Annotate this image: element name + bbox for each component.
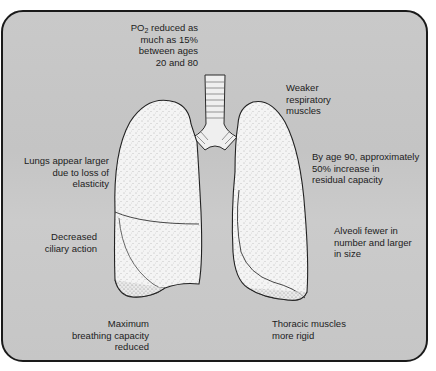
trachea-icon <box>193 75 237 150</box>
diagram-frame: PO2 reduced as much as 15% between ages … <box>1 10 428 362</box>
left-lung-icon <box>115 100 202 297</box>
label-ciliary-action: Decreased ciliary action <box>13 231 97 254</box>
label-po2-reduced: PO2 reduced as much as 15% between ages … <box>112 22 198 68</box>
label-lungs-larger: Lungs appear larger due to loss of elast… <box>13 155 109 190</box>
label-thoracic-muscles: Thoracic muscles more rigid <box>272 318 372 341</box>
right-lung-icon <box>232 101 307 300</box>
label-residual-capacity: By age 90, approximately 50% increase in… <box>312 151 427 186</box>
label-weaker-muscles: Weaker respiratory muscles <box>286 82 366 117</box>
label-breathing-capacity: Maximum breathing capacity reduced <box>63 318 149 353</box>
label-alveoli: Alveoli fewer in number and larger in si… <box>334 225 424 260</box>
